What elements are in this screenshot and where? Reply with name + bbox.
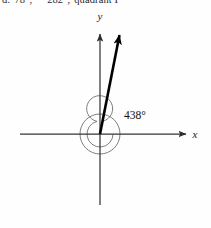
y-axis-label: y [97, 10, 103, 22]
x-axis-label: x [192, 128, 198, 140]
terminal-ray [100, 35, 120, 134]
angle-diagram: x y 438° [0, 0, 211, 228]
angle-measure-label: 438° [124, 109, 146, 121]
diagram-canvas: x y 438° [0, 0, 211, 228]
